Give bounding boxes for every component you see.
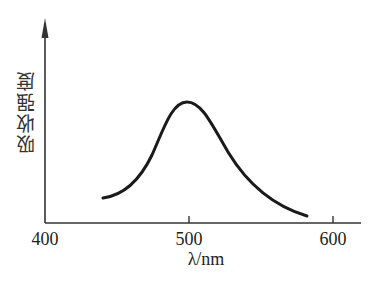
x-tick-label-400: 400 xyxy=(32,229,59,250)
y-axis-arrow-icon xyxy=(42,18,49,38)
x-tick-label-500: 500 xyxy=(176,229,203,250)
x-axis-label: λ/nm xyxy=(188,249,225,270)
x-tick-label-600: 600 xyxy=(320,229,347,250)
absorption-curve xyxy=(103,102,307,216)
y-axis-label: 吸收强度 xyxy=(12,70,36,154)
